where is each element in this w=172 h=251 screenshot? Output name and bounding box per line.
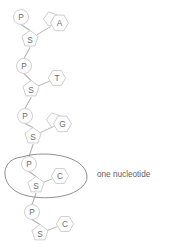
sugar-label: S [27,35,33,45]
glycosidic-bond [44,179,52,182]
backbone-segment-s-to-p [25,98,31,109]
nucleotide-highlight-outline [5,154,87,198]
dna-diagram-canvas: PSAPSTPSGPSCPSC one nucleotide [0,0,172,251]
phosphate-group: P [14,10,29,25]
glycosidic-bond [39,81,49,85]
nucleotide-unit: PSC [22,157,69,192]
backbone-segment-s-to-p [32,194,36,205]
base-group: A [43,12,68,31]
base-group: T [48,71,65,86]
dna-nucleotide-diagram: PSAPSTPSGPSCPSC one nucleotide [0,0,172,251]
base-label: C [62,219,68,229]
sugar-group: S [22,31,38,46]
sugar-group: S [23,81,39,96]
nucleotide-unit: PSC [25,205,74,240]
phosphate-group: P [18,109,33,124]
sugar-label: S [33,181,39,191]
nucleotide-unit: PSG [18,109,72,143]
base-label: C [57,171,63,181]
sugar-label: S [28,85,34,95]
phosphate-label: P [18,12,24,22]
base-group: G [46,113,71,132]
phosphate-group: P [25,205,40,220]
base-group: C [51,169,68,184]
base-bond-group [37,27,57,230]
phosphate-label: P [29,207,35,217]
nucleotide-unit: PSA [14,10,69,46]
glycosidic-bond [37,27,50,35]
backbone-segment-p-to-s [24,74,31,81]
sugar-group: S [25,128,41,143]
base-label: A [57,18,63,28]
phosphate-label: P [21,61,27,71]
glycosidic-bond [48,227,57,230]
sugar-group: S [32,225,48,240]
one-nucleotide-label: one nucleotide [97,170,151,179]
phosphate-label: P [22,111,28,121]
phosphate-group: P [17,59,32,74]
nucleotide-units: PSAPSTPSGPSCPSC [14,10,74,240]
base-label: G [59,119,65,129]
backbone-segment-s-to-p [24,48,30,59]
phosphate-group: P [22,157,37,172]
backbone-segment-p-to-s [29,172,36,177]
sugar-label: S [30,132,36,142]
backbone-segment-p-to-s [32,220,40,225]
backbone-segment-p-to-s [21,25,30,31]
phosphate-label: P [26,159,32,169]
glycosidic-bond [41,127,53,133]
base-group: C [56,217,73,232]
sugar-group: S [28,177,44,192]
sugar-label: S [37,229,43,239]
base-label: T [54,73,59,83]
nucleotide-unit: PST [17,59,66,96]
backbone-segment-p-to-s [25,124,33,128]
